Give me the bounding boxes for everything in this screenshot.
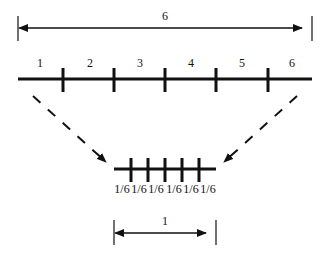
sub-segment-label: 1/6: [131, 182, 146, 196]
unit-number-line: 1/6 1/6 1/6 1/6 1/6 1/6: [114, 158, 216, 196]
segment-label: 4: [188, 56, 194, 70]
left-dashed-arrow: [33, 96, 106, 162]
top-dimension-label: 6: [162, 9, 168, 23]
segment-label: 5: [239, 56, 245, 70]
sub-segment-label: 1/6: [166, 182, 181, 196]
right-dashed-arrow: [224, 96, 297, 162]
segment-label: 6: [289, 56, 295, 70]
sub-segment-label: 1/6: [200, 182, 215, 196]
segment-label: 1: [37, 56, 43, 70]
segment-label: 3: [137, 56, 143, 70]
sub-segment-label: 1/6: [183, 182, 198, 196]
sub-segment-label: 1/6: [148, 182, 163, 196]
top-dimension-arrow: 6: [18, 9, 312, 41]
sub-segment-label: 1/6: [114, 182, 129, 196]
fraction-diagram: 6 1 2 3 4 5 6 1/6 1/6 1/6 1/6 1/6 1/6: [0, 0, 326, 262]
bottom-dimension-arrow: 1: [114, 214, 216, 245]
bottom-dimension-label: 1: [162, 214, 168, 228]
main-number-line: 1 2 3 4 5 6: [18, 56, 312, 92]
segment-label: 2: [87, 56, 93, 70]
